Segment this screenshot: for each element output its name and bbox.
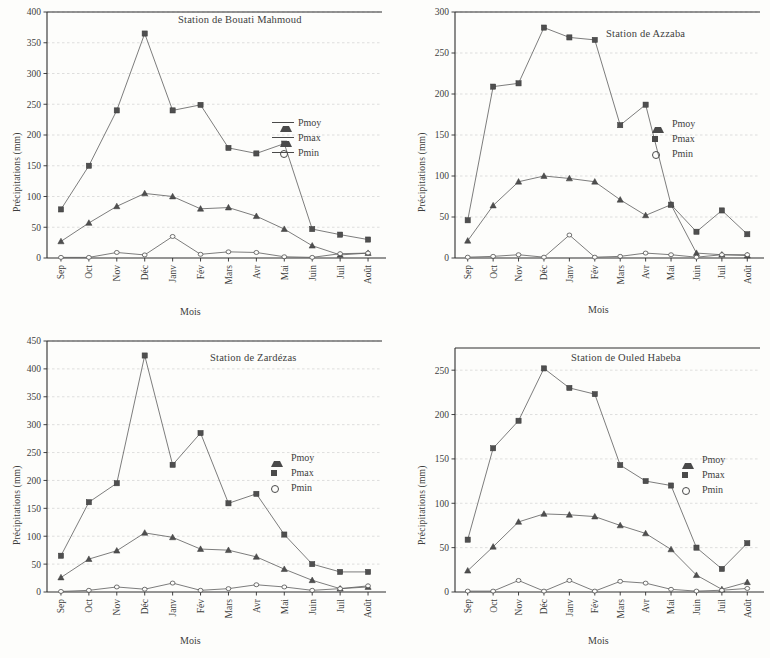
svg-text:Fév: Fév: [196, 265, 206, 280]
legend-item-pmax: Pmax: [265, 465, 314, 480]
svg-text:Mai: Mai: [280, 599, 290, 615]
svg-text:Mars: Mars: [224, 265, 234, 285]
svg-text:Mars: Mars: [616, 265, 626, 285]
svg-text:0: 0: [36, 587, 41, 597]
x-axis-label: Mois: [588, 635, 609, 646]
svg-text:Mai: Mai: [280, 265, 290, 281]
svg-text:0: 0: [444, 253, 449, 263]
svg-text:150: 150: [435, 454, 450, 464]
y-axis-label: Précipitations (mm): [12, 132, 22, 212]
legend: Pmoy Pmax Pmin: [646, 116, 695, 161]
legend-marker-pmoy-icon: [265, 452, 287, 464]
svg-text:Déc: Déc: [539, 265, 549, 280]
svg-text:350: 350: [27, 392, 42, 402]
legend-item-pmoy: Pmoy: [676, 452, 725, 467]
svg-text:Sep: Sep: [463, 265, 473, 280]
legend-item-pmin: Pmin: [676, 482, 725, 497]
svg-text:100: 100: [435, 499, 450, 509]
legend-label-pmoy: Pmoy: [291, 452, 314, 464]
legend-item-pmin: Pmin: [646, 146, 695, 161]
x-axis-label: Mois: [180, 306, 201, 317]
svg-text:Août: Août: [743, 599, 753, 618]
svg-text:Nov: Nov: [112, 265, 122, 282]
figure-page: Précipitations (mm) Station de Bouati Ma…: [0, 0, 770, 658]
svg-text:Déc: Déc: [140, 265, 150, 280]
svg-text:Avr: Avr: [641, 264, 651, 279]
chart-title: Station de Zardézas: [210, 352, 297, 363]
svg-text:Janv: Janv: [168, 599, 178, 617]
svg-text:100: 100: [435, 171, 450, 181]
legend-label-pmoy: Pmoy: [702, 454, 725, 466]
svg-text:200: 200: [27, 476, 42, 486]
legend-marker-pmoy-icon: [676, 454, 698, 466]
svg-text:Oct: Oct: [84, 265, 94, 279]
legend-label-pmax: Pmax: [702, 469, 725, 481]
chart-plot-area: 050100150200250300SepOctNovDécJanvFévMar…: [408, 0, 770, 330]
svg-text:Août: Août: [743, 265, 753, 284]
svg-text:Juil: Juil: [336, 265, 346, 279]
legend-marker-pmoy-icon: [646, 118, 668, 130]
legend-marker-pmoy-icon: [272, 117, 294, 129]
legend-item-pmin: Pmin: [265, 480, 314, 495]
svg-text:Janv: Janv: [565, 599, 575, 617]
svg-text:Sep: Sep: [56, 265, 66, 280]
legend-marker-pmin-icon: [676, 484, 698, 496]
legend-marker-pmin-icon: [272, 147, 294, 159]
svg-text:400: 400: [27, 364, 42, 374]
svg-text:100: 100: [27, 532, 42, 542]
legend-marker-pmax-icon: [646, 133, 668, 145]
svg-text:250: 250: [27, 100, 42, 110]
svg-text:150: 150: [27, 161, 42, 171]
svg-text:Oct: Oct: [84, 599, 94, 613]
svg-text:150: 150: [27, 504, 42, 514]
svg-text:Nov: Nov: [514, 265, 524, 282]
y-axis-label: Précipitations (mm): [12, 465, 22, 545]
svg-text:Déc: Déc: [539, 599, 549, 614]
legend-marker-pmin-icon: [265, 482, 287, 494]
svg-text:Mars: Mars: [616, 599, 626, 619]
svg-text:Juil: Juil: [336, 599, 346, 613]
svg-text:Juin: Juin: [692, 265, 702, 281]
legend-label-pmax: Pmax: [298, 132, 321, 144]
legend-label-pmin: Pmin: [291, 482, 312, 494]
y-axis-label: Précipitations (mm): [417, 132, 427, 212]
svg-text:200: 200: [435, 410, 450, 420]
legend: Pmoy Pmax Pmin: [676, 452, 725, 497]
y-axis-label: Précipitations (mm): [417, 465, 427, 545]
svg-text:Juin: Juin: [692, 599, 702, 615]
legend-marker-pmin-icon: [646, 148, 668, 160]
svg-text:50: 50: [440, 543, 450, 553]
svg-text:Avr: Avr: [252, 598, 262, 613]
svg-text:250: 250: [27, 448, 42, 458]
svg-text:0: 0: [36, 253, 41, 263]
x-axis-label: Mois: [588, 304, 609, 315]
legend-label-pmax: Pmax: [672, 133, 695, 145]
svg-text:Janv: Janv: [565, 265, 575, 283]
svg-text:Juin: Juin: [308, 599, 318, 615]
svg-text:50: 50: [32, 560, 42, 570]
legend-label-pmin: Pmin: [672, 148, 693, 160]
chart-plot-area: 050100150200250300350400450SepOctNovDécJ…: [0, 330, 400, 658]
svg-text:Juin: Juin: [308, 265, 318, 281]
svg-text:300: 300: [27, 69, 42, 79]
chart-plot-area: 050100150200250300350400SepOctNovDécJanv…: [0, 0, 400, 330]
x-axis-label: Mois: [180, 635, 201, 646]
legend-item-pmin: Pmin: [272, 145, 321, 160]
svg-text:200: 200: [435, 89, 450, 99]
svg-text:Août: Août: [363, 599, 373, 618]
svg-text:Oct: Oct: [489, 599, 499, 613]
svg-text:Juil: Juil: [717, 265, 727, 279]
svg-text:350: 350: [27, 38, 42, 48]
svg-text:Sep: Sep: [56, 599, 66, 614]
svg-text:Janv: Janv: [168, 265, 178, 283]
svg-text:300: 300: [27, 420, 42, 430]
svg-text:Oct: Oct: [489, 265, 499, 279]
chart-panel-ouled-habeba: Précipitations (mm) Station de Ouled Hab…: [408, 330, 770, 658]
svg-text:50: 50: [32, 223, 42, 233]
svg-text:250: 250: [435, 48, 450, 58]
svg-text:150: 150: [435, 130, 450, 140]
chart-panel-bouati-mahmoud: Précipitations (mm) Station de Bouati Ma…: [0, 0, 400, 330]
svg-text:Août: Août: [363, 265, 373, 284]
svg-text:450: 450: [27, 336, 42, 346]
svg-text:300: 300: [435, 7, 450, 17]
